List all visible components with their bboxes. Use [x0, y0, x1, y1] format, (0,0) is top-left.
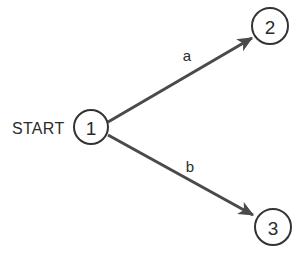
node-1-label: 1	[86, 118, 97, 139]
edge-a-to-node-2[interactable]: a	[108, 38, 252, 122]
edge-b-line	[108, 135, 253, 215]
edge-a-label: a	[183, 47, 192, 64]
edge-group: a b	[108, 38, 253, 215]
node-2[interactable]: 2	[252, 8, 288, 44]
edge-a-line	[108, 38, 252, 122]
node-1[interactable]: 1	[74, 110, 108, 144]
start-label: START	[12, 120, 64, 137]
edge-b-to-node-3[interactable]: b	[108, 135, 253, 215]
node-3-label: 3	[268, 218, 279, 239]
diagram-canvas: a b START 1 2 3	[0, 0, 308, 263]
node-group: 1 2 3	[74, 8, 291, 245]
node-3[interactable]: 3	[255, 209, 291, 245]
node-2-label: 2	[265, 17, 276, 38]
edge-b-label: b	[186, 158, 194, 175]
state-transition-diagram: a b START 1 2 3	[0, 0, 308, 263]
